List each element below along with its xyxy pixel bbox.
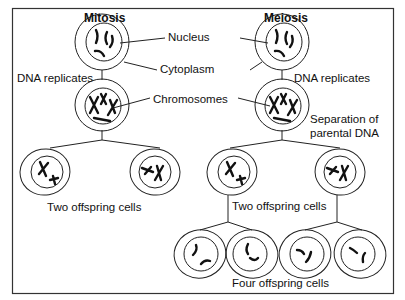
cytoplasm-leader-right	[250, 62, 262, 70]
mitosis-two-offspring-label: Two offspring cells	[47, 201, 141, 214]
chromosomes-four-cell-3	[297, 250, 311, 262]
meiosis-replicated-cell	[255, 79, 309, 131]
meiosis-four-cell-1	[169, 224, 232, 284]
chromosomes-four-cell-1	[193, 245, 210, 264]
connector-branch	[230, 140, 340, 148]
nucleus-label: Nucleus	[168, 31, 210, 44]
meiosis-four-cell-2	[221, 224, 284, 284]
meiosis-two-offspring-label: Two offspring cells	[232, 200, 326, 213]
cytoplasm-label: Cytoplasm	[160, 63, 214, 76]
connector-branch	[305, 222, 362, 230]
nucleus-leader-right	[240, 38, 268, 43]
dna-replicates-right-label: DNA replicates	[294, 72, 370, 85]
chromosomes-mitosis-offspring-2	[142, 166, 163, 180]
chromosomes-meiosis-offspring-2	[327, 166, 348, 180]
mitosis-meiosis-diagram: Mitosis Meiosis Nucleus Cytoplasm Chromo…	[0, 0, 405, 300]
meiosis-title: Meiosis	[264, 11, 308, 25]
separation-label-line2: parental DNA	[310, 127, 379, 140]
meiosis-offspring-cell-2	[311, 145, 368, 199]
chromosomes-mitosis-parent	[95, 30, 113, 56]
chromosomes-leader-left	[113, 98, 150, 108]
chromosomes-mitosis-offspring-1	[39, 162, 58, 184]
mitosis-title: Mitosis	[84, 11, 125, 25]
chromosomes-four-cell-2	[247, 244, 259, 260]
diagram-frame	[13, 9, 394, 294]
chromosomes-label: Chromosomes	[153, 93, 228, 106]
mitosis-offspring-cell-2	[126, 145, 183, 199]
chromosomes-four-cell-4	[350, 248, 365, 262]
separation-label-line1: Separation of	[310, 113, 378, 126]
chromosomes-meiosis-replicated	[270, 94, 297, 121]
chromosomes-mitosis-replicated	[90, 94, 117, 121]
diagram-graphics	[0, 0, 405, 300]
chromosomes-meiosis-parent	[275, 30, 293, 56]
nucleus-leader-left	[120, 38, 165, 43]
cytoplasm-leader-left	[124, 62, 157, 70]
connector-branch	[50, 140, 160, 148]
dna-replicates-left-label: DNA replicates	[17, 72, 93, 85]
meiosis-four-cell-4	[329, 224, 392, 284]
connector-branch	[200, 222, 252, 230]
chromosomes-meiosis-offspring-1	[226, 162, 245, 184]
meiosis-four-offspring-label: Four offspring cells	[232, 277, 329, 290]
mitosis-replicated-cell	[75, 79, 129, 131]
